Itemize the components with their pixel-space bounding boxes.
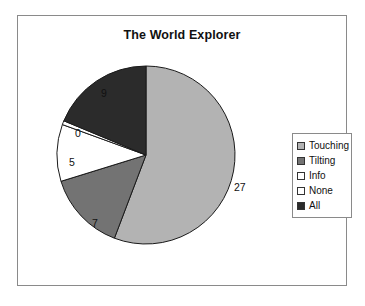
legend-item-info: Info [297,168,347,183]
pie-label-all: 9 [101,87,107,99]
legend-item-label: All [309,201,320,211]
legend-swatch-icon [297,142,305,150]
pie-label-none: 5 [69,156,75,168]
legend-swatch-icon [297,172,305,180]
legend-swatch-icon [297,202,305,210]
legend-item-touching: Touching [297,138,347,153]
legend-item-tilting: Tilting [297,153,347,168]
pie-label-touching: 27 [234,181,246,193]
legend-item-all: All [297,198,347,213]
pie-label-info: 0 [75,127,81,139]
legend-item-none: None [297,183,347,198]
legend-item-label: Tilting [309,156,335,166]
legend-item-label: Info [309,171,326,181]
pie-label-tilting: 7 [92,217,98,229]
pie-chart [56,65,236,245]
legend-item-label: Touching [309,141,349,151]
legend-item-label: None [309,186,333,196]
chart-legend: TouchingTiltingInfoNoneAll [292,133,352,218]
legend-swatch-icon [297,187,305,195]
legend-swatch-icon [297,157,305,165]
chart-frame: The World Explorer 277509 TouchingTiltin… [17,15,347,286]
